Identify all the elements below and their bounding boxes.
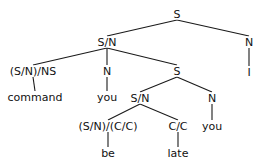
tree-node-label: you [96, 92, 118, 103]
tree-node-label: late [167, 148, 190, 159]
tree-edge [107, 48, 177, 65]
tree-node-label: S [173, 66, 182, 77]
tree-node-label: I [246, 67, 251, 78]
parse-tree-diagram: SS/NNI(S/N)/NSNScommandyouS/NN(S/N)/(C/C… [0, 0, 262, 166]
tree-edge [108, 104, 140, 120]
tree-edges [0, 0, 262, 166]
tree-node-label: N [102, 66, 112, 77]
tree-node-label: you [201, 121, 223, 132]
tree-edge [140, 77, 177, 92]
tree-edge [177, 77, 212, 92]
tree-edge [33, 48, 107, 65]
tree-node-label: (S/N)/(C/C) [78, 121, 139, 132]
tree-node-label: N [244, 37, 254, 48]
tree-node-label: (S/N)/NS [9, 66, 57, 77]
tree-node-label: be [100, 148, 116, 159]
tree-node-label: N [207, 93, 217, 104]
tree-edge [177, 20, 249, 36]
tree-node-label: S/N [97, 37, 118, 48]
tree-edge [107, 20, 177, 36]
tree-node-label: S [173, 9, 182, 20]
tree-node-label: C/C [167, 121, 188, 132]
tree-node-label: S/N [130, 93, 151, 104]
tree-edge [33, 77, 35, 91]
tree-edge [140, 104, 178, 120]
tree-node-label: command [7, 92, 64, 103]
